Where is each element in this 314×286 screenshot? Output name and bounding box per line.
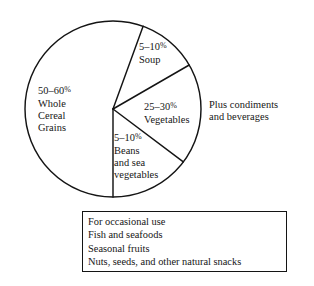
slice-label-beans-line3: vegetables: [114, 169, 158, 180]
annotation-plus-line1: Plus condiments: [209, 99, 278, 110]
list-item: Fish and seafoods: [88, 228, 286, 241]
list-item: Seasonal fruits: [88, 242, 286, 255]
slice-label-soup: 5–10% Soup: [139, 40, 167, 66]
list-item: For occasional use: [88, 215, 286, 228]
slice-label-beans-line1: Beans: [114, 145, 140, 156]
slice-label-whole-cereal-grains: 50–60% Whole Cereal Grains: [38, 84, 71, 135]
slice-label-vegetables: 25–30% Vegetables: [144, 100, 190, 126]
slice-label-beans-line2: and sea: [114, 157, 145, 168]
slice-percent-vegetables: 25–30%: [144, 101, 177, 112]
pie-chart-figure: 50–60% Whole Cereal Grains 5–10% Soup 25…: [0, 0, 314, 286]
slice-label-grains-line2: Cereal: [38, 110, 65, 121]
annotation-plus-line2: and beverages: [209, 111, 269, 122]
occasional-use-list: For occasional use Fish and seafoods Sea…: [83, 212, 286, 268]
slice-label-beans-and-sea-vegetables: 5–10% Beans and sea vegetables: [114, 131, 158, 182]
slice-percent-grains: 50–60%: [38, 85, 71, 96]
slice-label-vegetables-line1: Vegetables: [144, 114, 190, 125]
slice-label-grains-line1: Whole: [38, 98, 66, 109]
list-item: Nuts, seeds, and other natural snacks: [88, 255, 286, 268]
slice-label-soup-line1: Soup: [139, 54, 161, 65]
annotation-plus-condiments: Plus condiments and beverages: [209, 99, 278, 124]
slice-label-grains-line3: Grains: [38, 122, 66, 133]
slice-percent-soup: 5–10%: [139, 41, 167, 52]
pie-divider-grains-soup: [113, 26, 143, 109]
slice-percent-beans: 5–10%: [114, 132, 142, 143]
occasional-use-box: For occasional use Fish and seafoods Sea…: [82, 211, 287, 272]
